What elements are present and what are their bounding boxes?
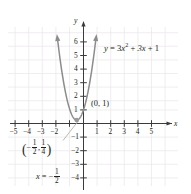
x-tick-label-1: 1 [95,128,99,135]
vertex-x-numerator: 1 [32,139,38,147]
x-tick-label-4: 4 [136,128,140,135]
y-tick-label-2: 2 [74,92,78,99]
y-axis-arrowhead [81,21,85,27]
symmetry-numerator: 1 [54,168,60,176]
symmetry-minus: − [49,172,54,181]
symmetry-fraction: 12 [54,168,60,184]
equation-term3: 1 [155,43,159,53]
x-tick-label-neg3: −3 [37,128,45,135]
vertex-minus: − [27,143,32,152]
x-tick-label-3: 3 [122,128,126,135]
vertex-label: (−12,14) [22,139,51,155]
vertex-x-denominator: 2 [32,147,38,156]
equation-plus-2: + [148,43,153,53]
symmetry-var: x [36,172,40,181]
equation-label: y = 3x2 + 3x + 1 [104,42,159,52]
equation-plus-1: + [130,43,135,53]
x-tick-label-2: 2 [109,128,113,135]
y-tick-label-1: 1 [74,106,78,113]
equation-lhs: y [104,43,108,53]
y-tick-label-4: 4 [74,65,78,72]
equation-term1-exponent: 2 [125,41,128,48]
y-tick-label-neg3: −3 [71,160,79,167]
y-tick-label-neg4: −4 [71,174,79,181]
y-tick-label-neg2: −2 [71,147,79,154]
y-tick-label-6: 6 [74,38,78,45]
vertex-x-fraction: 12 [32,139,38,155]
vertex-y-fraction: 14 [41,139,47,155]
x-tick-label-neg2: −2 [50,128,58,135]
equation-equals: = [110,43,115,53]
y-tick-label-neg1: −1 [71,133,79,140]
y-axis-label: y [74,17,77,25]
symmetry-equals: = [42,172,47,181]
x-tick-label-5: 5 [149,128,153,135]
coordinate-plane [0,0,191,194]
parabola-graph-figure: y x 6 5 4 3 2 1 −1 −2 −3 −4 −5 −4 −3 −2 … [0,0,191,194]
x-axis-label: x [174,120,177,128]
x-axis-arrowhead [167,121,173,125]
axis-of-symmetry-label: x = −12 [36,168,60,184]
vertex-y-numerator: 1 [41,139,47,147]
y-tick-label-3: 3 [74,79,78,86]
x-tick-label-neg5: −5 [10,128,18,135]
vertex-close-paren: ) [47,142,52,157]
y-intercept-label: (0, 1) [91,100,109,108]
equation-term2: 3x [137,43,145,53]
symmetry-denominator: 2 [54,176,60,185]
y-tick-label-5: 5 [74,52,78,59]
vertex-y-denominator: 4 [41,147,47,156]
vertex-point [74,118,79,123]
x-tick-label-neg4: −4 [23,128,31,135]
